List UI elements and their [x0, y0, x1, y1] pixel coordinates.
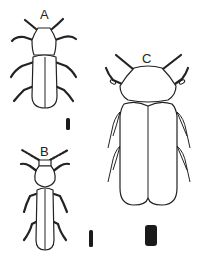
- label-a: A: [40, 7, 49, 22]
- leg-mid-left-a: [11, 62, 34, 77]
- leg-front-left-b: [21, 164, 38, 172]
- specimen-c: C: [106, 51, 190, 246]
- scale-bar-c: [145, 225, 157, 246]
- leg-mid-right-b: [54, 194, 67, 212]
- pronotum-b: [35, 166, 55, 187]
- antenna-left-c: [116, 55, 133, 69]
- tibia-mid-left-c: [113, 112, 120, 136]
- label-b: B: [40, 144, 49, 159]
- leg-front-right-c: [175, 68, 188, 84]
- scale-bar-b: [89, 230, 93, 247]
- specimen-a: A: [11, 7, 76, 130]
- antenna-right-c: [163, 55, 181, 69]
- leg-hind-right-a: [55, 86, 73, 101]
- head-b: [39, 160, 51, 166]
- antenna-left-b: [22, 150, 39, 160]
- leg-front-right-b: [52, 164, 69, 172]
- antenna-right-a: [52, 19, 63, 29]
- pronotum-c: [120, 66, 176, 102]
- leg-front-left-c: [106, 68, 122, 84]
- leg-front-right-a: [55, 36, 76, 40]
- tibia-hind-left-c: [113, 146, 120, 170]
- leg-hind-left-a: [14, 86, 34, 101]
- leg-hind-right-b: [54, 222, 66, 240]
- scale-bar-a: [66, 118, 70, 130]
- label-c: C: [142, 51, 151, 66]
- pronotum-a: [32, 28, 56, 55]
- leg-mid-right-a: [55, 62, 76, 77]
- tibia-hind-right-c: [177, 146, 187, 170]
- beetle-figure: A B: [0, 0, 202, 258]
- leg-mid-left-b: [24, 194, 36, 212]
- specimen-b: B: [21, 144, 93, 250]
- antenna-left-a: [25, 20, 36, 29]
- leg-hind-left-b: [24, 222, 36, 240]
- antenna-right-b: [50, 150, 68, 160]
- leg-front-left-a: [12, 37, 33, 41]
- tibia-mid-right-c: [177, 112, 187, 136]
